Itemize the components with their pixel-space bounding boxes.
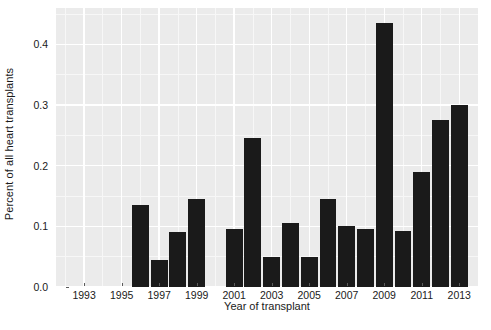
bar	[432, 120, 449, 287]
bar	[320, 199, 337, 287]
x-axis-tick-mark	[309, 283, 310, 286]
x-axis-tick-mark	[159, 283, 160, 286]
bar	[357, 229, 374, 287]
x-axis-tick-mark	[422, 283, 423, 286]
x-axis-tick-label: 2011	[402, 289, 442, 301]
gridline-major-horizontal	[56, 44, 478, 45]
x-axis-title-text: Year of transplant	[224, 300, 310, 312]
x-axis-tick-mark	[347, 283, 348, 286]
gridline-minor-horizontal	[56, 14, 478, 15]
gridline-minor-horizontal	[56, 74, 478, 75]
x-axis-tick-mark	[84, 283, 85, 286]
bar	[244, 138, 261, 287]
bar	[338, 226, 355, 287]
x-axis-tick-mark	[197, 283, 198, 286]
gridline-major-horizontal	[56, 165, 478, 166]
bar	[282, 223, 299, 287]
gridline-major-vertical	[121, 8, 122, 287]
x-axis-tick-mark	[384, 283, 385, 286]
y-axis-title: Percent of all heart transplants	[0, 0, 18, 288]
x-axis-tick-mark	[122, 283, 123, 286]
x-axis-tick-mark	[459, 283, 460, 286]
x-axis-tick-mark	[234, 283, 235, 286]
bar	[395, 231, 412, 287]
y-axis-title-text: Percent of all heart transplants	[3, 68, 15, 220]
y-axis-tick-label: 0.3	[20, 100, 48, 111]
bar	[132, 205, 149, 287]
x-axis-tick-label: 1995	[102, 289, 142, 301]
bar-chart: Percent of all heart transplants 0.00.10…	[0, 0, 491, 330]
gridline-major-vertical	[158, 8, 159, 287]
gridline-minor-vertical	[215, 8, 216, 287]
x-axis-tick-label: 2013	[439, 289, 479, 301]
bar	[413, 172, 430, 287]
x-axis-tick-mark	[272, 283, 273, 286]
x-axis-tick-label: 2007	[327, 289, 367, 301]
x-axis-tick-label: 2005	[289, 289, 329, 301]
y-axis-tick-labels: 0.00.10.20.30.4	[18, 0, 48, 330]
y-axis-tick-label: 0.0	[20, 282, 48, 293]
x-axis-tick-label: 1993	[64, 289, 104, 301]
x-axis-tick-label: 2003	[252, 289, 292, 301]
bar	[169, 232, 186, 287]
y-axis-tick-label: 0.4	[20, 39, 48, 50]
plot-panel	[56, 8, 478, 287]
x-axis-tick-label: 1997	[139, 289, 179, 301]
bar	[188, 199, 205, 287]
gridline-minor-vertical	[102, 8, 103, 287]
bar	[226, 229, 243, 287]
gridline-minor-vertical	[65, 8, 66, 287]
x-axis-tick-label: 2001	[214, 289, 254, 301]
x-axis-tick-label: 1999	[177, 289, 217, 301]
bar	[376, 23, 393, 287]
x-axis-title: Year of transplant	[56, 300, 478, 312]
x-axis-tick-label: 2009	[364, 289, 404, 301]
gridline-major-vertical	[271, 8, 272, 287]
gridline-minor-horizontal	[56, 135, 478, 136]
y-axis-tick-label: 0.2	[20, 160, 48, 171]
gridline-major-vertical	[309, 8, 310, 287]
y-axis-tick-mark	[66, 287, 69, 288]
y-axis-tick-label: 0.1	[20, 221, 48, 232]
bar	[451, 105, 468, 287]
gridline-major-vertical	[83, 8, 84, 287]
gridline-major-horizontal	[56, 104, 478, 105]
